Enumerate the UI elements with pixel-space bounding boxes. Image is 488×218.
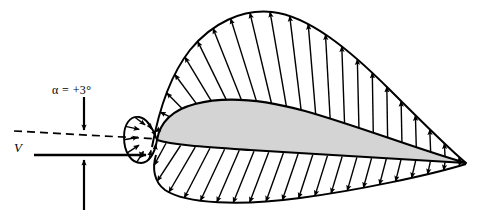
pressure-arrow: [401, 101, 402, 142]
pressure-arrow: [157, 145, 180, 181]
pressure-arrow: [331, 157, 342, 194]
pressure-arrow: [372, 73, 373, 133]
pressure-arrow: [233, 151, 254, 202]
pressure-arrow: [387, 87, 388, 138]
airfoil-pressure-distribution-figure: [0, 0, 488, 218]
pressure-arrow: [347, 157, 357, 190]
pressure-arrow: [290, 16, 301, 110]
pressure-arrow: [282, 154, 298, 200]
pressure-arrow: [127, 145, 139, 153]
angle-of-attack-label: α = +3°: [52, 83, 91, 98]
pressure-arrow: [270, 12, 286, 107]
pressure-arrow: [167, 93, 182, 109]
pressure-arrow: [315, 156, 328, 196]
pressure-arrow: [444, 143, 445, 156]
pressure-arrow: [396, 160, 401, 182]
pressure-arrow: [415, 115, 416, 147]
pressure-arrow: [160, 112, 169, 117]
pressure-arrow: [266, 153, 283, 201]
pressure-arrow: [380, 159, 387, 185]
pressure-arrow: [250, 152, 269, 202]
pressure-arrow: [363, 158, 371, 188]
pressure-arrow: [325, 35, 330, 119]
pressure-arrow: [430, 129, 431, 152]
pressure-arrow: [126, 126, 140, 129]
pressure-arrow: [175, 74, 197, 103]
airfoil-body: [157, 100, 466, 163]
pressure-arrow: [428, 161, 431, 174]
pressure-arrow: [342, 46, 345, 123]
pressure-arrow: [137, 151, 144, 162]
freestream-velocity-label: V: [14, 140, 22, 156]
pressure-arrow: [231, 19, 257, 102]
pressure-arrow: [412, 161, 416, 178]
pressure-arrow: [308, 24, 315, 114]
pressure-arrow: [299, 155, 313, 198]
pressure-arrow: [357, 59, 359, 128]
